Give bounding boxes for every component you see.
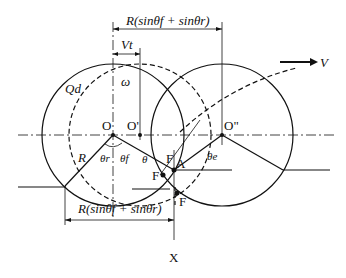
point-x-label: X bbox=[169, 250, 179, 265]
theta-r-label: θr bbox=[100, 152, 110, 164]
point-f1-label: F bbox=[166, 151, 173, 166]
center-o-double-prime-label: O" bbox=[224, 118, 239, 133]
omega-label: ω bbox=[121, 74, 130, 89]
bottom-dimension-label: R(sinθf + sinθr) bbox=[77, 201, 162, 216]
point-f2-label: F bbox=[152, 168, 159, 183]
wheel-soil-diagram: R(sinθf + sinθr) Vt V ω Qd O O' O" R θr … bbox=[0, 0, 346, 278]
theta-label: θ bbox=[142, 153, 148, 165]
point-a-label: A bbox=[176, 156, 186, 171]
theta-e-label: θe bbox=[207, 150, 217, 162]
qd-label: Qd bbox=[65, 81, 81, 96]
point-f3-label: F bbox=[179, 194, 186, 209]
center-o-label: O bbox=[102, 118, 111, 133]
vt-label: Vt bbox=[121, 37, 133, 52]
top-dimension-label: R(sinθf + sinθr) bbox=[125, 13, 210, 28]
radius-label: R bbox=[77, 150, 86, 165]
theta-f-label: θf bbox=[120, 152, 130, 164]
center-o-prime-label: O' bbox=[127, 118, 139, 133]
velocity-label: V bbox=[320, 55, 330, 70]
